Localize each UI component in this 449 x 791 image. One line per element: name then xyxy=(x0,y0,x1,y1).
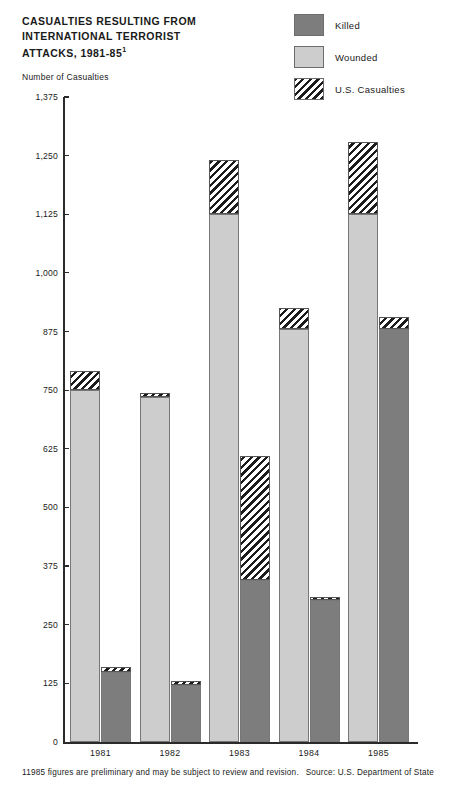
y-axis-tick-label: 1,125 xyxy=(16,209,58,219)
y-axis-tick xyxy=(64,272,69,273)
bar-killed-1981 xyxy=(101,672,131,742)
bar-us-casualties-killed-1983 xyxy=(240,456,270,580)
bar-us-casualties-killed-1981 xyxy=(101,667,131,672)
y-axis-tick xyxy=(64,565,69,566)
y-axis-tick xyxy=(64,331,69,332)
bar-wounded-1983 xyxy=(209,214,239,742)
x-axis-label-1983: 1983 xyxy=(209,748,270,758)
x-axis-label-1984: 1984 xyxy=(279,748,340,758)
y-axis-tick xyxy=(64,624,69,625)
x-axis-line xyxy=(63,742,418,744)
y-axis-tick-label: 625 xyxy=(16,444,58,454)
bar-us-casualties-wounded-1985 xyxy=(348,142,378,215)
bar-us-casualties-wounded-1983 xyxy=(209,160,239,214)
bar-us-casualties-killed-1984 xyxy=(310,597,340,600)
footnote: 11985 figures are preliminary and may be… xyxy=(22,768,299,777)
y-axis-tick xyxy=(64,683,69,684)
x-axis-label-1985: 1985 xyxy=(348,748,409,758)
bar-us-casualties-wounded-1982 xyxy=(140,393,170,398)
x-axis-label-1981: 1981 xyxy=(70,748,131,758)
y-axis-tick-label: 1,375 xyxy=(16,92,58,102)
y-axis-tick xyxy=(64,507,69,508)
bar-wounded-1985 xyxy=(348,214,378,742)
y-axis-tick-label: 0 xyxy=(16,737,58,747)
y-axis-tick-label: 250 xyxy=(16,620,58,630)
y-axis-tick-label: 750 xyxy=(16,385,58,395)
y-axis-tick-label: 500 xyxy=(16,502,58,512)
bar-killed-1985 xyxy=(379,329,409,742)
bar-us-casualties-killed-1982 xyxy=(171,681,201,685)
source-credit: Source: U.S. Department of State xyxy=(306,768,434,777)
bar-wounded-1982 xyxy=(140,397,170,742)
y-axis-line xyxy=(63,97,65,743)
bar-us-casualties-killed-1985 xyxy=(379,317,409,329)
y-axis-tick xyxy=(64,390,69,391)
y-axis-tick-label: 875 xyxy=(16,327,58,337)
y-axis-tick-label: 1,250 xyxy=(16,151,58,161)
x-axis-label-1982: 1982 xyxy=(140,748,201,758)
bar-us-casualties-wounded-1981 xyxy=(70,371,100,390)
bar-wounded-1984 xyxy=(279,329,309,742)
footnote-text: 1985 figures are preliminary and may be … xyxy=(26,768,299,777)
chart-footer: 11985 figures are preliminary and may be… xyxy=(22,768,434,777)
chart-plot-area: 01252503755006257508751,0001,1251,2501,3… xyxy=(0,0,449,791)
bar-killed-1982 xyxy=(171,685,201,742)
bar-killed-1984 xyxy=(310,600,340,742)
y-axis-tick xyxy=(64,155,69,156)
y-axis-tick xyxy=(64,96,69,97)
y-axis-tick-label: 1,000 xyxy=(16,268,58,278)
bar-killed-1983 xyxy=(240,580,270,742)
y-axis-tick-label: 375 xyxy=(16,561,58,571)
y-axis-tick xyxy=(64,214,69,215)
y-axis-tick-label: 125 xyxy=(16,678,58,688)
y-axis-tick xyxy=(64,448,69,449)
bar-us-casualties-wounded-1984 xyxy=(279,308,309,329)
bar-wounded-1981 xyxy=(70,390,100,742)
